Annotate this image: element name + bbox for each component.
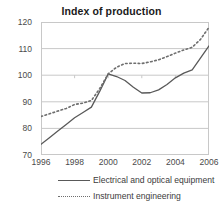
legend-line-sample xyxy=(58,191,90,201)
y-axis-tick-label: 120 xyxy=(18,18,32,27)
solid-line-icon xyxy=(58,180,90,181)
series-line-1 xyxy=(41,46,209,144)
y-axis-tick-label: 110 xyxy=(18,44,32,53)
y-axis-tick-label: 80 xyxy=(23,124,32,133)
chart-plot-svg xyxy=(41,22,209,155)
dotted-line-icon xyxy=(58,196,90,197)
legend-item: Electrical and optical equipment xyxy=(0,172,223,188)
y-axis-tick-label: 90 xyxy=(23,98,32,107)
y-axis-labels: 708090100110120 xyxy=(0,22,36,155)
series-line-2 xyxy=(41,27,209,116)
chart-legend: Electrical and optical equipmentInstrume… xyxy=(0,172,223,204)
legend-label: Electrical and optical equipment xyxy=(93,176,214,185)
x-axis-tick-label: 2002 xyxy=(132,158,151,167)
chart-container: Index of production 708090100110120 1996… xyxy=(0,0,223,208)
legend-line-sample xyxy=(58,175,90,185)
x-axis-tick-label: 1998 xyxy=(65,158,84,167)
x-axis-tick-label: 2000 xyxy=(99,158,118,167)
chart-title: Index of production xyxy=(0,5,223,17)
x-axis-tick-label: 2004 xyxy=(166,158,185,167)
x-axis-labels: 199619982000200220042006 xyxy=(41,158,209,172)
x-axis-tick-label: 1996 xyxy=(32,158,51,167)
y-axis-tick-label: 100 xyxy=(18,71,32,80)
legend-item: Instrument engineering xyxy=(0,188,223,204)
x-axis-tick-label: 2006 xyxy=(200,158,219,167)
legend-label: Instrument engineering xyxy=(93,192,181,201)
plot-area xyxy=(41,22,209,155)
